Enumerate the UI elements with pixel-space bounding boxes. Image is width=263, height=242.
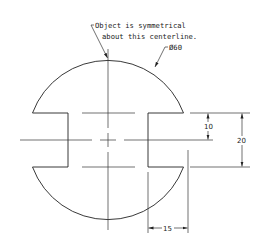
note-line-2: about this centerline. [102, 32, 197, 41]
diameter-label: Ø60 [169, 43, 182, 52]
technical-drawing: 10 20 15 Object is symmetrical about thi… [0, 0, 263, 242]
dim-10-label: 10 [204, 123, 213, 131]
dim-20-label: 20 [237, 137, 246, 145]
dim-15-label: 15 [163, 225, 172, 233]
diameter-leader-diag [155, 47, 165, 67]
note-line-1: Object is symmetrical [95, 21, 186, 30]
drawing-svg: 10 20 15 Object is symmetrical about thi… [0, 0, 263, 242]
